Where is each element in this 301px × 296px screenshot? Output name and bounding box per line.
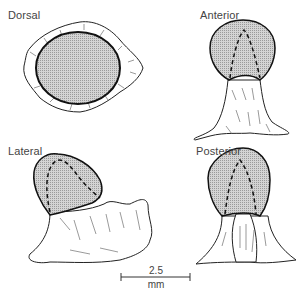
lateral-specimen [29, 154, 152, 263]
label-posterior: Posterior [196, 145, 241, 157]
scale-bar-unit: mm [136, 280, 176, 290]
anterior-specimen [194, 20, 289, 140]
label-anterior: Anterior [200, 9, 239, 21]
dorsal-specimen [24, 22, 143, 112]
label-dorsal: Dorsal [8, 9, 40, 21]
posterior-specimen [196, 148, 296, 264]
figure-canvas [0, 0, 301, 296]
label-lateral: Lateral [8, 145, 42, 157]
scale-bar-value: 2.5 [136, 266, 176, 276]
